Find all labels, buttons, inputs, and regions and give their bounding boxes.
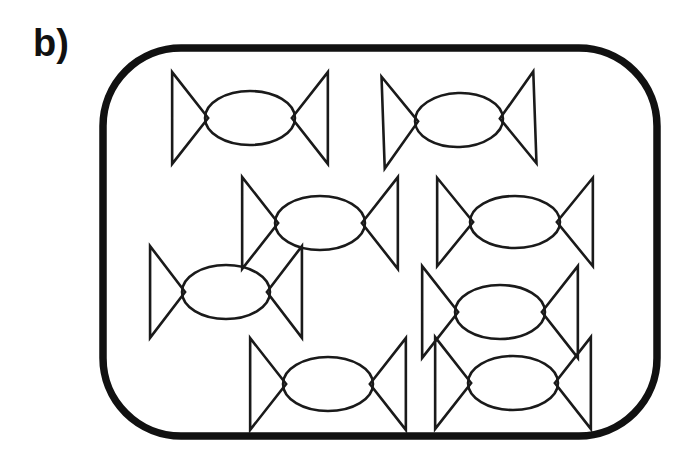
figure-panel: b) <box>0 0 684 469</box>
candy-scene <box>0 0 684 469</box>
